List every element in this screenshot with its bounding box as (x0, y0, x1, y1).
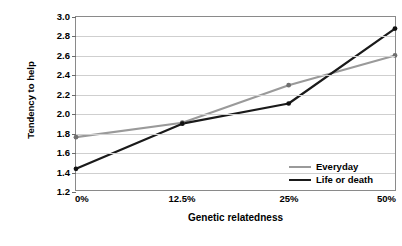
y-axis-tick-labels: 3.02.82.62.42.22.01.81.61.41.2 (44, 0, 72, 200)
y-axis-tick-label: 1.4 (57, 166, 70, 177)
legend-item: Everyday (289, 160, 399, 173)
y-axis-tick-mark (72, 56, 76, 57)
gridline (76, 36, 395, 37)
series-line (76, 29, 395, 169)
y-axis-tick-mark (72, 114, 76, 115)
data-point-marker (286, 101, 291, 106)
y-axis-tick-label: 1.8 (57, 127, 70, 138)
gridline (76, 153, 395, 154)
y-axis-tick-mark (72, 75, 76, 76)
y-axis-title: Tendency to help (25, 61, 36, 138)
gridline (76, 114, 395, 115)
chart-legend: EverydayLife or death (289, 160, 399, 186)
data-point-marker (74, 166, 79, 171)
y-axis-tick-mark (72, 173, 76, 174)
y-axis-tick-label: 2.8 (57, 30, 70, 41)
y-axis-tick-mark (72, 36, 76, 37)
y-axis-tick-mark (72, 95, 76, 96)
data-point-marker (74, 135, 79, 140)
y-axis-tick-label: 2.6 (57, 49, 70, 60)
x-axis-tick-labels: 0%12.5%25%50% (75, 193, 396, 207)
y-axis-tick-label: 2.2 (57, 88, 70, 99)
data-point-marker (393, 26, 398, 31)
data-point-marker (180, 121, 185, 126)
y-axis-tick-label: 2.0 (57, 108, 70, 119)
gridline (76, 56, 395, 57)
data-point-marker (286, 83, 291, 88)
x-axis-tick-label: 50% (377, 193, 396, 204)
y-axis-tick-mark (72, 153, 76, 154)
y-axis-tick-label: 1.6 (57, 147, 70, 158)
legend-label: Everyday (316, 161, 358, 172)
y-axis-tick-mark (72, 17, 76, 18)
series-line (76, 55, 395, 137)
gridline (76, 75, 395, 76)
legend-label: Life or death (316, 174, 373, 185)
gridline (76, 134, 395, 135)
legend-swatch (289, 179, 311, 181)
y-axis-tick-label: 2.4 (57, 69, 70, 80)
x-axis-tick-label: 25% (279, 193, 298, 204)
chart-figure: From Burnstein et al., "Some neo-Darwini… (0, 0, 402, 246)
x-axis-title: Genetic relatedness (75, 212, 396, 223)
y-axis-tick-mark (72, 134, 76, 135)
y-axis-tick-label: 1.2 (57, 186, 70, 197)
gridline (76, 95, 395, 96)
x-axis-tick-label: 12.5% (169, 193, 196, 204)
y-axis-tick-label: 3.0 (57, 11, 70, 22)
legend-item: Life or death (289, 173, 399, 186)
legend-swatch (289, 166, 311, 168)
x-axis-tick-label: 0% (75, 193, 89, 204)
